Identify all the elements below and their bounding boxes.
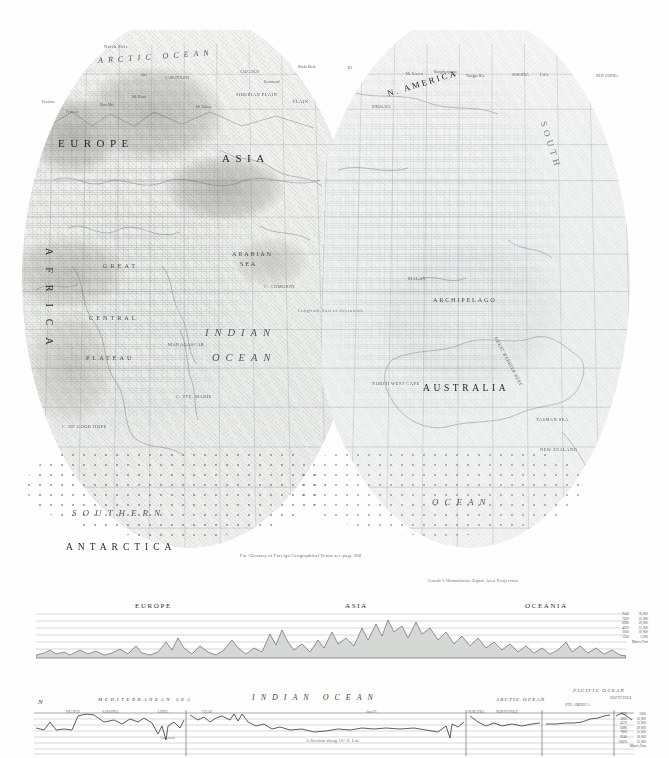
relief-point-label: Mt. Elbrus — [196, 105, 212, 109]
profile-section-asia: ASIA — [345, 602, 368, 610]
relief-elevation-scale: 914030,000762025,000609620,000457015,000… — [616, 612, 648, 644]
relief-point-label: Alps — [140, 73, 147, 77]
ocean-section-plot — [34, 710, 634, 756]
glossary-note: For Glossary of Foreign Geographical Ter… — [240, 553, 361, 558]
relief-point-label: Pennines — [42, 100, 55, 104]
relief-point-label: Harz Mts. — [100, 103, 114, 107]
relief-point-label: HIMALAYA — [372, 105, 391, 109]
section-label-pacific-ocean: PACIFIC OCEAN — [573, 688, 625, 693]
projection-note: Goode's Homolosine Equal Area Projection — [428, 578, 518, 583]
antarctic-ice-stipple — [26, 452, 326, 552]
atlas-plate-page: EUROPE ASIA AFRICA AUSTRALIA ANTARCTICA … — [0, 0, 669, 758]
section-label-south-pole: SOUTH POLE — [610, 696, 632, 700]
relief-point-label: Tsangpo Riv. — [466, 74, 485, 78]
relief-point-label: Mt. Blanc — [132, 95, 146, 99]
scale-meters: 1520 — [616, 635, 629, 640]
world-map[interactable]: EUROPE ASIA AFRICA AUSTRALIA ANTARCTICA … — [0, 0, 669, 595]
scale-units: Meters Feet — [616, 640, 648, 645]
section-label-mediterranean: MEDITERRANEAN SEA — [98, 697, 192, 702]
relief-profile-plot — [36, 612, 626, 660]
depth-gridlines — [34, 713, 634, 754]
relief-point-label: Demavend — [264, 80, 280, 84]
profile-section-oceania: OCEANIA — [525, 602, 568, 610]
section-label-north: N — [38, 698, 44, 706]
relief-point-label: CAUCASUS — [240, 70, 259, 74]
ocean-section-chart: N MEDITERRANEAN SEA INDIAN OCEAN ARCTIC … — [0, 684, 669, 758]
relief-point-label: Hindu Kush — [298, 65, 315, 69]
relief-point-label: CARPATHIANS — [165, 76, 189, 80]
relief-point-label: JAVA — [540, 73, 548, 77]
relief-point-label: Pyrenees — [66, 110, 79, 114]
relief-point-label: SUMATRA — [512, 73, 529, 77]
section-label-arctic-ocean: ARCTIC OCEAN — [496, 697, 545, 702]
relief-point-label: NEW GUINEA — [596, 74, 619, 78]
section-label-south-america: STH. AMERICA — [565, 703, 590, 707]
relief-point-label: K2 — [348, 66, 352, 70]
relief-profile-chart: EUROPE ASIA OCEANIA 914030,000762025,000… — [0, 600, 669, 662]
section-label-indian-ocean: INDIAN OCEAN — [252, 693, 379, 702]
scale-meters: 10670 — [614, 740, 627, 745]
section-caption: A Section along 10° S. Lat. — [306, 738, 360, 743]
relief-point-label: Mt. Everest — [406, 72, 423, 76]
relief-point-label: Kangchenjunga — [434, 70, 457, 74]
scale-units: Meters Feet — [614, 744, 646, 749]
profile-section-europe: EUROPE — [135, 602, 172, 610]
depth-scale: 15205000305010,000457015,000609620,00076… — [614, 712, 646, 749]
